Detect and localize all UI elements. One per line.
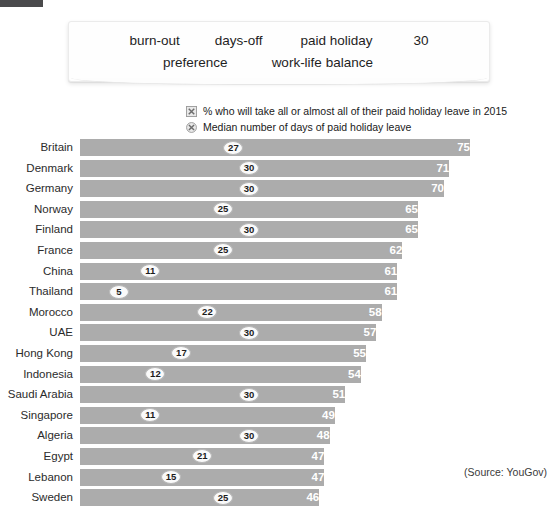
country-label: Lebanon xyxy=(0,469,73,486)
broken-image-square-icon xyxy=(186,106,197,117)
bar-track: 5412 xyxy=(80,366,557,383)
bar-track: 615 xyxy=(80,283,557,300)
country-label: Algeria xyxy=(0,427,73,444)
percent-value: 57 xyxy=(80,324,381,341)
chart-legend: % who will take all or almost all of the… xyxy=(186,104,516,136)
bar-row: Denmark7130 xyxy=(0,160,557,181)
percent-value: 54 xyxy=(80,366,366,383)
median-days-badge: 30 xyxy=(239,223,259,237)
bar-track: 4721 xyxy=(80,448,557,465)
country-label: Germany xyxy=(0,180,73,197)
median-days-badge: 30 xyxy=(239,326,259,340)
keyword-burn-out: burn-out xyxy=(129,33,179,48)
bar-track: 7030 xyxy=(80,180,557,197)
bar-row: Sweden4625 xyxy=(0,489,557,510)
median-days-badge: 30 xyxy=(239,429,259,443)
keyword-card: burn-out days-off paid holiday 30 prefer… xyxy=(68,21,490,82)
bar-track: 4911 xyxy=(80,407,557,424)
horizontal-bar-chart: Britain7527Denmark7130Germany7030Norway6… xyxy=(0,139,557,510)
legend-item-percent: % who will take all or almost all of the… xyxy=(186,104,516,118)
bar-track: 5730 xyxy=(80,324,557,341)
bar-row: China6111 xyxy=(0,263,557,284)
bar-row: Thailand615 xyxy=(0,283,557,304)
percent-value: 49 xyxy=(80,407,340,424)
percent-value: 58 xyxy=(80,304,387,321)
country-label: Morocco xyxy=(0,304,73,321)
percent-value: 48 xyxy=(80,427,335,444)
country-label: UAE xyxy=(0,324,73,341)
percent-value: 61 xyxy=(80,263,402,280)
percent-value: 65 xyxy=(80,201,423,218)
bar-track: 6530 xyxy=(80,221,557,238)
bar-row: UAE5730 xyxy=(0,324,557,345)
keyword-days-off: days-off xyxy=(215,33,263,48)
broken-image-circle-icon xyxy=(186,122,197,133)
percent-value: 51 xyxy=(80,386,350,403)
legend-item-median: Median number of days of paid holiday le… xyxy=(186,120,516,134)
bar-track: 4625 xyxy=(80,489,557,506)
percent-value: 55 xyxy=(80,345,371,362)
bar-row: Indonesia5412 xyxy=(0,366,557,387)
bar-track: 6525 xyxy=(80,201,557,218)
keyword-preference: preference xyxy=(163,55,228,70)
median-days-badge: 27 xyxy=(223,141,243,155)
keyword-thirty: 30 xyxy=(414,33,429,48)
bar-row: Britain7527 xyxy=(0,139,557,160)
median-days-badge: 25 xyxy=(213,491,233,505)
country-label: China xyxy=(0,263,73,280)
country-label: Norway xyxy=(0,201,73,218)
keyword-row-1: burn-out days-off paid holiday 30 xyxy=(69,33,489,48)
median-days-badge: 15 xyxy=(161,470,181,484)
legend-label-median: Median number of days of paid holiday le… xyxy=(203,121,411,133)
legend-label-percent: % who will take all or almost all of the… xyxy=(203,105,507,117)
bar-row: Norway6525 xyxy=(0,201,557,222)
percent-value: 70 xyxy=(80,180,449,197)
country-label: Hong Kong xyxy=(0,345,73,362)
percent-value: 47 xyxy=(80,469,329,486)
bar-row: France6225 xyxy=(0,242,557,263)
bar-row: Hong Kong5517 xyxy=(0,345,557,366)
keyword-work-life-balance: work-life balance xyxy=(272,55,373,70)
keyword-paid-holiday: paid holiday xyxy=(300,33,372,48)
country-label: Saudi Arabia xyxy=(0,386,73,403)
source-attribution: (Source: YouGov) xyxy=(464,466,547,478)
bar-track: 7130 xyxy=(80,160,557,177)
country-label: Egypt xyxy=(0,448,73,465)
bar-track: 6111 xyxy=(80,263,557,280)
country-label: Singapore xyxy=(0,407,73,424)
bar-row: Morocco5822 xyxy=(0,304,557,325)
bar-track: 5517 xyxy=(80,345,557,362)
bar-track: 6225 xyxy=(80,242,557,259)
bar-track: 5822 xyxy=(80,304,557,321)
country-label: Indonesia xyxy=(0,366,73,383)
top-dark-strip xyxy=(0,0,43,7)
percent-value: 75 xyxy=(80,139,475,156)
percent-value: 62 xyxy=(80,242,407,259)
country-label: Thailand xyxy=(0,283,73,300)
median-days-badge: 5 xyxy=(109,285,129,299)
bar-track: 4830 xyxy=(80,427,557,444)
bar-row: Algeria4830 xyxy=(0,427,557,448)
bar-row: Singapore4911 xyxy=(0,407,557,428)
country-label: France xyxy=(0,242,73,259)
country-label: Britain xyxy=(0,139,73,156)
median-days-badge: 30 xyxy=(239,388,259,402)
keyword-row-2: preference work-life balance xyxy=(69,55,489,70)
bar-row: Saudi Arabia5130 xyxy=(0,386,557,407)
percent-value: 71 xyxy=(80,160,454,177)
median-days-badge: 30 xyxy=(239,182,259,196)
country-label: Sweden xyxy=(0,489,73,506)
country-label: Finland xyxy=(0,221,73,238)
bar-row: Finland6530 xyxy=(0,221,557,242)
percent-value: 46 xyxy=(80,489,324,506)
bar-row: Germany7030 xyxy=(0,180,557,201)
country-label: Denmark xyxy=(0,160,73,177)
bar-track: 5130 xyxy=(80,386,557,403)
bar-track: 7527 xyxy=(80,139,557,156)
median-days-badge: 30 xyxy=(239,161,259,175)
